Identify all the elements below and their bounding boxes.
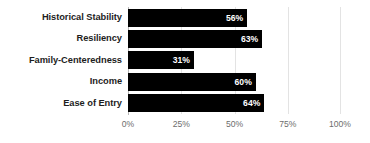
- x-tick-label: 25%: [173, 117, 190, 131]
- x-axis-tick-labels: 0% 25% 50% 75% 100%: [128, 117, 341, 133]
- bar-value-label: 63%: [236, 30, 258, 48]
- bar-value-label: 60%: [230, 73, 252, 91]
- x-tick-label: 50%: [226, 117, 243, 131]
- category-label: Historical Stability: [42, 7, 122, 28]
- bar-value-label: 56%: [221, 9, 243, 27]
- bar-row: 63%: [128, 28, 341, 49]
- category-label: Income: [90, 71, 122, 92]
- category-label: Ease of Entry: [63, 93, 122, 114]
- x-tick-label: 0%: [122, 117, 134, 131]
- horizontal-bar-chart: Historical Stability Resiliency Family-C…: [0, 0, 370, 143]
- category-label-axis: Historical Stability Resiliency Family-C…: [0, 7, 122, 114]
- bar-row: 56%: [128, 7, 341, 28]
- x-tick-label: 100%: [329, 117, 351, 131]
- bar-row: 31%: [128, 50, 341, 71]
- bar-row: 60%: [128, 71, 341, 92]
- plot-area: 56% 63% 31% 60% 64%: [128, 7, 341, 114]
- bar-value-label: 31%: [168, 51, 190, 69]
- bar-value-label: 64%: [238, 94, 260, 112]
- bar-row: 64%: [128, 93, 341, 114]
- category-label: Family-Centeredness: [29, 50, 122, 71]
- x-tick-label: 75%: [279, 117, 296, 131]
- category-label: Resiliency: [77, 28, 123, 49]
